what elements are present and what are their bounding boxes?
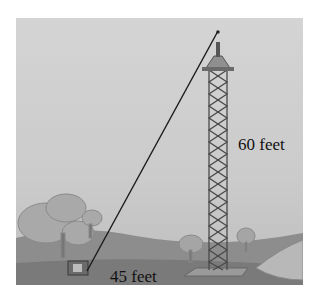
figure-panel: 60 feet 45 feet: [16, 18, 303, 285]
guy-wire: [87, 31, 218, 271]
tower-icon: [209, 70, 227, 270]
anchor-box-icon: [68, 261, 88, 275]
height-label: 60 feet: [238, 136, 285, 153]
tower-base: [184, 268, 248, 276]
base-label: 45 feet: [110, 268, 157, 285]
